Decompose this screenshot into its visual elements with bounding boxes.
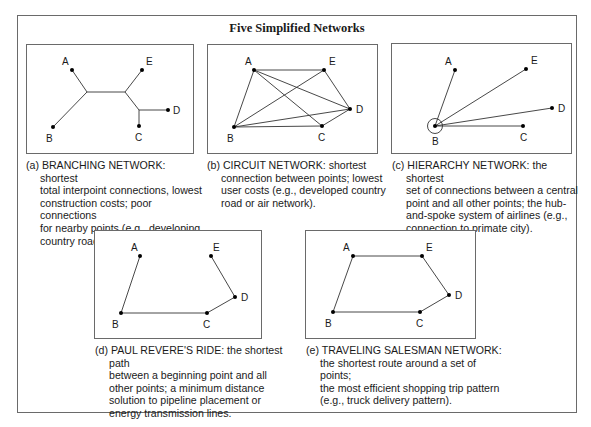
node-a-label: A (445, 56, 452, 67)
figure-title: Five Simplified Networks (17, 21, 577, 36)
panel-branching-network: A B C D E (26, 44, 194, 154)
branching-network-diagram: A B C D E (27, 45, 195, 155)
node-e-label: E (426, 242, 433, 253)
traveling-salesman-diagram: A B C D E (306, 231, 477, 340)
node-d-label: D (173, 105, 180, 116)
node-d-label: D (455, 290, 462, 301)
node-d-label: D (356, 104, 363, 115)
node-b-label: B (227, 133, 234, 144)
circuit-network-diagram: A B C D E (208, 45, 379, 155)
node-a-label: A (62, 56, 69, 67)
node-e-label: E (531, 55, 538, 66)
node-c-label: C (520, 132, 527, 143)
node-e-label: E (329, 56, 336, 67)
panel-traveling-salesman-network: A B C D E (305, 230, 476, 339)
panel-hierarchy-network: A B C D E (391, 43, 572, 154)
caption-circuit-network: (b) CIRCUIT NETWORK: shortest connection… (207, 159, 387, 209)
node-a-label: A (245, 56, 252, 67)
node-b-label: B (112, 319, 119, 330)
node-d-label: D (558, 103, 565, 114)
node-c-label: C (416, 318, 423, 329)
node-d-label: D (241, 292, 248, 303)
panel-circuit-network: A B C D E (207, 44, 378, 154)
caption-paul-reveres-ride: (d) PAUL REVERE'S RIDE: the shortest pat… (95, 344, 295, 420)
node-b-label: B (432, 136, 439, 147)
node-e-label: E (146, 56, 153, 67)
node-c-label: C (203, 319, 210, 330)
node-b-label: B (46, 133, 53, 144)
node-a-label: A (131, 242, 138, 253)
node-e-label: E (213, 242, 220, 253)
node-a-label: A (343, 242, 350, 253)
node-c-label: C (318, 132, 325, 143)
caption-hierarchy-network: (c) HIERARCHY NETWORK: the shortest set … (392, 159, 578, 235)
node-c-label: C (135, 132, 142, 143)
paul-reveres-ride-diagram: A B C D E (95, 231, 263, 340)
node-b-label: B (325, 318, 332, 329)
panel-paul-reveres-ride: A B C D E (94, 230, 262, 339)
hierarchy-network-diagram: A B C D E (392, 44, 573, 155)
caption-traveling-salesman-network: (e) TRAVELING SALESMAN NETWORK: the shor… (306, 344, 506, 407)
